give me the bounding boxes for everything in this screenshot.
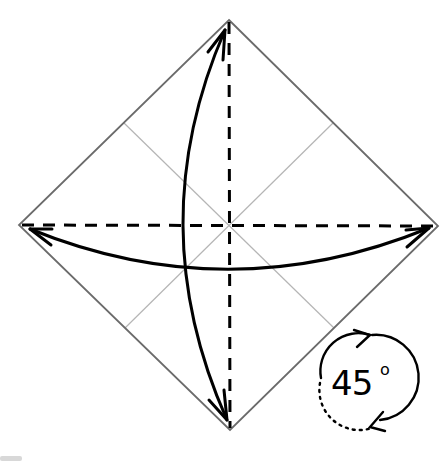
origami-diagram: [0, 0, 445, 461]
degree-symbol: o: [380, 360, 390, 379]
edge-artifact: [0, 456, 22, 461]
rotation-label: 45: [331, 363, 372, 403]
